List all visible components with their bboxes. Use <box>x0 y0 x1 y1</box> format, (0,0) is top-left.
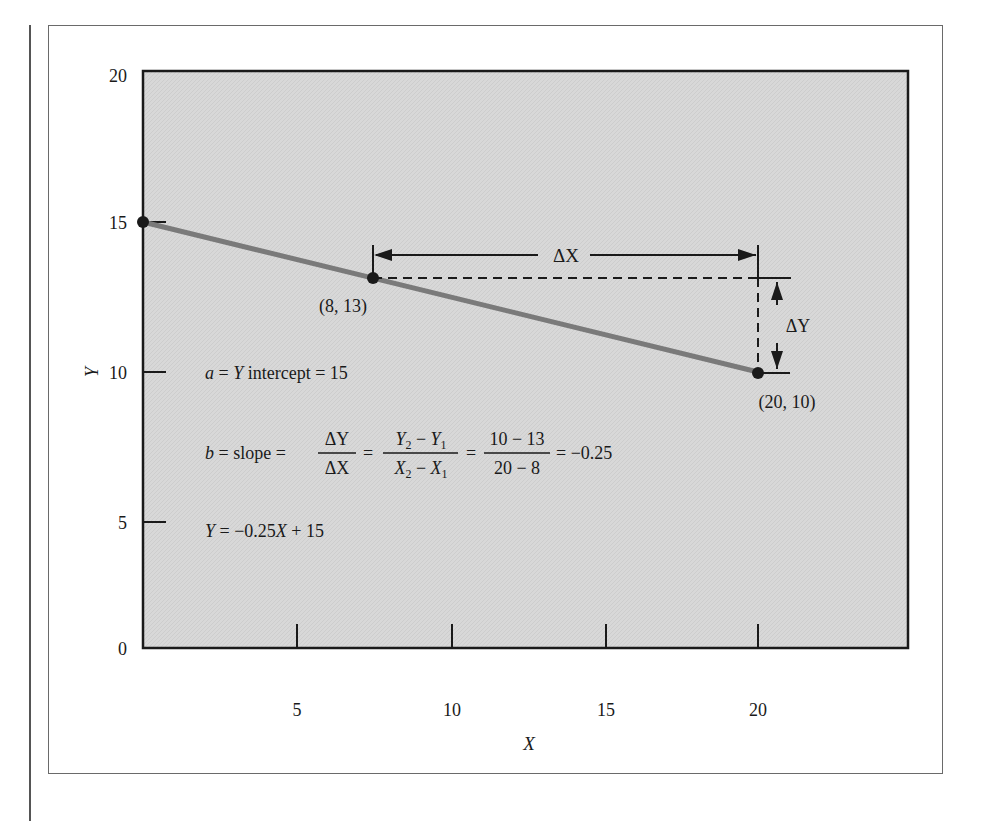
point-intercept <box>137 216 149 228</box>
svg-text:ΔX: ΔX <box>325 458 350 478</box>
svg-text:X2 − X1: X2 − X1 <box>393 458 447 481</box>
svg-text:b = slope =: b = slope = <box>205 443 286 463</box>
svg-text:= −0.25: = −0.25 <box>556 443 612 463</box>
line-equation: Y = −0.25X + 15 <box>205 521 324 541</box>
svg-text:20 − 8: 20 − 8 <box>494 458 540 478</box>
y-tick-label: 15 <box>109 213 127 233</box>
svg-text:ΔY: ΔY <box>325 429 350 449</box>
chart: 20 15 10 5 0 Y 5 10 15 20 X ΔX ΔY <box>0 0 984 821</box>
delta-y-label: ΔY <box>786 316 811 336</box>
y-tick-labels: 20 15 10 5 0 <box>109 66 127 659</box>
svg-text:Y2 − Y1: Y2 − Y1 <box>395 429 446 452</box>
x-tick-labels: 5 10 15 20 <box>293 700 768 720</box>
svg-text:=: = <box>363 443 373 463</box>
y-axis-label: Y <box>82 365 102 377</box>
delta-x-label: ΔX <box>553 245 579 266</box>
svg-text:10 − 13: 10 − 13 <box>489 429 544 449</box>
x-tick-label: 15 <box>597 700 615 720</box>
intercept-equation: a = Y intercept = 15 <box>205 363 348 383</box>
point-label-8-13: (8, 13) <box>319 296 367 317</box>
y-tick-label: 5 <box>118 513 127 533</box>
point-8-13 <box>367 272 379 284</box>
point-20-10 <box>752 367 764 379</box>
x-axis-label: X <box>522 733 536 754</box>
x-tick-label: 5 <box>293 700 302 720</box>
x-tick-label: 10 <box>443 700 461 720</box>
y-tick-label: 20 <box>109 66 127 86</box>
x-tick-label: 20 <box>749 700 767 720</box>
point-label-20-10: (20, 10) <box>759 392 816 413</box>
y-tick-label: 0 <box>118 639 127 659</box>
svg-text:=: = <box>466 443 476 463</box>
y-tick-label: 10 <box>109 363 127 383</box>
plot-area <box>143 71 908 648</box>
